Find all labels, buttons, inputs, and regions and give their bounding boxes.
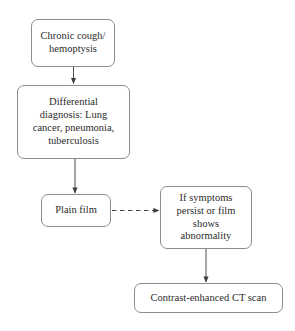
flowchart-node-plain-film: Plain film [41,194,111,227]
flowchart-node-contrast-enhanced-ct-scan-label: Contrast-enhanced CT scan [151,292,267,305]
flowchart-node-if-symptoms-persist: If symptoms persist or film shows abnorm… [160,186,252,249]
flowchart-node-contrast-enhanced-ct-scan: Contrast-enhanced CT scan [134,283,283,313]
flowchart-node-differential-diagnosis-label: Differential diagnosis: Lung cancer, pne… [33,96,115,147]
flowchart-node-differential-diagnosis: Differential diagnosis: Lung cancer, pne… [17,85,130,159]
flowchart-node-chronic-cough-label: Chronic cough/ hemoptysis [40,30,105,56]
flowchart-canvas: Chronic cough/ hemoptysis Differential d… [0,0,295,331]
flowchart-node-chronic-cough: Chronic cough/ hemoptysis [31,19,115,67]
flowchart-node-plain-film-label: Plain film [55,204,97,217]
flowchart-node-if-symptoms-persist-label: If symptoms persist or film shows abnorm… [177,192,236,243]
